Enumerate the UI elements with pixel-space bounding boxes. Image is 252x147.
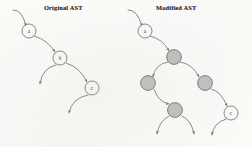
edges-layer bbox=[13, 10, 227, 135]
tree-edge bbox=[153, 62, 168, 77]
tree-edge bbox=[211, 89, 227, 106]
nodes-layer bbox=[22, 24, 238, 120]
ast-node bbox=[22, 24, 36, 38]
tree-edge bbox=[128, 10, 142, 26]
panel-title-modified: Modified AST bbox=[156, 4, 196, 11]
tree-edge bbox=[34, 36, 55, 52]
ast-node-shaded bbox=[141, 76, 156, 91]
tree-edge bbox=[154, 89, 169, 104]
tree-edge bbox=[69, 95, 88, 113]
tree-edge bbox=[150, 36, 169, 51]
ast-node-shaded bbox=[168, 103, 183, 118]
ast-node bbox=[53, 51, 67, 65]
ast-comparison-figure bbox=[0, 0, 252, 147]
tree-edge bbox=[13, 10, 26, 26]
ast-node-shaded bbox=[167, 50, 182, 65]
ast-node bbox=[138, 24, 152, 38]
tree-edge bbox=[40, 65, 56, 84]
tree-edge bbox=[157, 116, 169, 134]
tree-edge bbox=[182, 116, 194, 134]
ast-node-shaded bbox=[198, 76, 213, 91]
ast-node bbox=[224, 106, 238, 120]
ast-node bbox=[85, 81, 99, 95]
tree-edge bbox=[212, 119, 226, 135]
tree-edge bbox=[180, 62, 199, 77]
panel-title-original: Original AST bbox=[44, 4, 83, 11]
tree-edge bbox=[66, 63, 87, 82]
